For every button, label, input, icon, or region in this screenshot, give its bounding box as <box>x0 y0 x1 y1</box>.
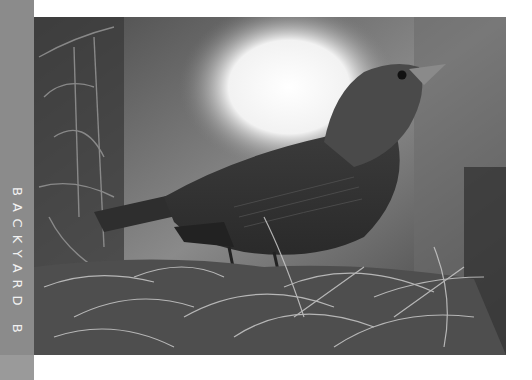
bird-photo-image <box>34 17 506 355</box>
bird-photo <box>34 17 506 355</box>
side-label: BACKYARD B <box>0 187 34 347</box>
side-strip-lower <box>0 355 34 380</box>
side-label-text: BACKYARD B <box>10 187 25 340</box>
